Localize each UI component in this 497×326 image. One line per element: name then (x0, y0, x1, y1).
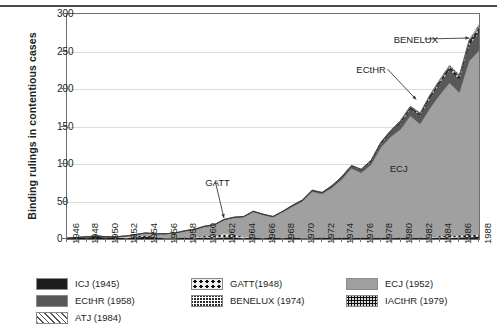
legend-item-label: ECJ (1952) (385, 278, 433, 289)
x-axis-tick-mark (272, 238, 273, 242)
x-axis-tick-mark (429, 238, 430, 242)
annotation-leader-line (387, 69, 416, 100)
x-axis-tick-mark (86, 238, 87, 242)
x-axis-tick-mark (292, 238, 293, 242)
x-axis-tick-mark (350, 238, 351, 242)
x-axis-tick-mark (311, 238, 312, 242)
y-axis-tick-mark (61, 51, 66, 52)
y-axis-tick-mark (61, 201, 66, 202)
annotation-label-gatt: GATT (205, 177, 230, 188)
x-axis-tick-mark (243, 238, 244, 242)
annotation-arrowhead-icon (465, 36, 469, 39)
x-axis-tick-mark (390, 238, 391, 242)
legend-item-label: ICJ (1945) (75, 278, 119, 289)
legend-column: ICJ (1945)ECtHR (1958)ATJ (1984) (36, 277, 135, 326)
x-axis-tick-mark (105, 238, 106, 242)
legend-item[interactable]: ICJ (1945) (36, 277, 135, 290)
x-axis-tick-mark (341, 238, 342, 242)
legend-item[interactable]: ECtHR (1958) (36, 294, 135, 307)
legend-swatch-icon (346, 295, 378, 307)
legend-item-label: IACtHR (1979) (385, 295, 447, 306)
annotation-arrowhead-icon (221, 214, 224, 218)
x-axis-tick-mark (223, 238, 224, 242)
x-axis-tick-mark (331, 238, 332, 242)
legend-item[interactable]: BENELUX (1974) (191, 294, 304, 307)
x-axis-tick-mark (400, 238, 401, 242)
annotation-label-ecj: ECJ (390, 163, 408, 174)
x-axis-tick-mark (380, 238, 381, 242)
area-series-benelux (67, 28, 479, 239)
x-axis-tick-mark (184, 238, 185, 242)
legend-swatch-icon (191, 278, 223, 290)
legend-swatch-icon (36, 312, 68, 324)
gridline (67, 202, 479, 203)
x-axis-tick-mark (262, 238, 263, 242)
area-series-atj (67, 25, 479, 239)
area-series-iacthr (67, 26, 479, 238)
x-axis-tick-mark (301, 238, 302, 242)
legend-item[interactable]: GATT(1948) (191, 277, 304, 290)
x-axis-tick-mark (370, 238, 371, 242)
legend-column: GATT(1948)BENELUX (1974) (191, 277, 304, 311)
legend-item[interactable]: ATJ (1984) (36, 311, 135, 324)
top-divider-rule (0, 5, 497, 7)
plot-area (66, 13, 480, 240)
x-axis-tick-mark (144, 238, 145, 242)
x-axis-tick-mark (174, 238, 175, 242)
legend-item-label: ATJ (1984) (75, 312, 121, 323)
gridline (67, 164, 479, 165)
annotation-label-ecthr: ECtHR (356, 64, 386, 75)
x-axis-tick-mark (164, 238, 165, 242)
gridline (67, 127, 479, 128)
x-axis-tick-mark (213, 238, 214, 242)
legend-item[interactable]: IACtHR (1979) (346, 294, 447, 307)
x-axis-tick-mark (252, 238, 253, 242)
x-axis-tick-mark (478, 238, 479, 242)
x-axis-tick-mark (95, 238, 96, 242)
x-axis-tick-mark (194, 238, 195, 242)
annotation-arrowhead-icon (412, 96, 416, 100)
legend-swatch-icon (36, 295, 68, 307)
x-axis-tick-mark (233, 238, 234, 242)
x-axis-tick-mark (458, 238, 459, 242)
x-axis-tick-mark (115, 238, 116, 242)
legend-swatch-icon (191, 295, 223, 307)
x-axis-tick-mark (419, 238, 420, 242)
x-axis-tick-mark (282, 238, 283, 242)
legend-item-label: BENELUX (1974) (230, 295, 304, 306)
x-axis-tick-mark (439, 238, 440, 242)
y-axis-tick-mark (61, 126, 66, 127)
x-axis-tick-mark (135, 238, 136, 242)
x-axis-tick-mark (321, 238, 322, 242)
y-axis-tick-mark (61, 13, 66, 14)
legend-column: ECJ (1952)IACtHR (1979) (346, 277, 447, 311)
x-axis-tick-mark (360, 238, 361, 242)
legend-item-label: GATT(1948) (230, 278, 282, 289)
x-axis-tick-mark (154, 238, 155, 242)
legend-swatch-icon (346, 278, 378, 290)
chart-figure: Binding rulings in contentious cases 050… (0, 0, 497, 326)
x-axis-tick-mark (66, 238, 67, 242)
x-axis-tick-mark (76, 238, 77, 242)
x-axis-tick-mark (468, 238, 469, 242)
chart-legend: ICJ (1945)ECtHR (1958)ATJ (1984)GATT(194… (36, 277, 491, 323)
area-series-ecj (67, 51, 479, 239)
x-axis-tick-label: 1988 (482, 223, 493, 244)
gridline (67, 52, 479, 53)
y-axis-title: Binding rulings in contentious cases (26, 6, 42, 246)
y-axis-tick-mark (61, 88, 66, 89)
x-axis-tick-mark (449, 238, 450, 242)
annotation-label-benelux: BENELUX (394, 34, 438, 45)
x-axis-tick-mark (125, 238, 126, 242)
legend-item[interactable]: ECJ (1952) (346, 277, 447, 290)
x-axis-tick-mark (203, 238, 204, 242)
y-axis-tick-mark (61, 163, 66, 164)
legend-item-label: ECtHR (1958) (75, 295, 135, 306)
area-series-ecthr (67, 33, 479, 239)
gridline (67, 89, 479, 90)
legend-swatch-icon (36, 278, 68, 290)
x-axis-tick-mark (409, 238, 410, 242)
